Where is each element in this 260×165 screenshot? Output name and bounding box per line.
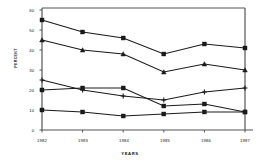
series-4-marker-0 bbox=[40, 88, 44, 92]
series-3-marker-3 bbox=[161, 98, 166, 103]
series-5-line bbox=[42, 110, 245, 116]
series-5-marker-1 bbox=[81, 110, 85, 114]
series-3-marker-5 bbox=[243, 86, 248, 91]
series-1-marker-1 bbox=[81, 30, 85, 34]
series-3-marker-4 bbox=[202, 90, 207, 95]
series-1-marker-4 bbox=[202, 42, 206, 46]
series-1-marker-3 bbox=[162, 52, 166, 56]
series-5-marker-4 bbox=[202, 110, 206, 114]
series-1-marker-2 bbox=[121, 36, 125, 40]
series-4-marker-2 bbox=[121, 86, 125, 90]
series-series-3 bbox=[40, 78, 248, 103]
data-series-layer bbox=[40, 18, 248, 118]
series-4-marker-1 bbox=[81, 86, 85, 90]
line-chart: PERCENT 60 50 40 30 20 10 0 1982 1983 19… bbox=[0, 0, 260, 165]
series-5-marker-0 bbox=[40, 108, 44, 112]
series-1-marker-0 bbox=[40, 18, 44, 22]
plot-area bbox=[0, 0, 260, 165]
series-4-marker-4 bbox=[202, 102, 206, 106]
series-series-5 bbox=[40, 108, 247, 118]
series-series-4 bbox=[40, 86, 247, 114]
series-5-marker-2 bbox=[121, 114, 125, 118]
series-series-2 bbox=[40, 38, 248, 74]
series-4-line bbox=[42, 88, 245, 112]
series-5-marker-3 bbox=[162, 112, 166, 116]
series-series-1 bbox=[40, 18, 247, 56]
series-1-marker-5 bbox=[243, 46, 247, 50]
series-5-marker-5 bbox=[243, 110, 247, 114]
series-1-line bbox=[42, 20, 245, 54]
series-4-marker-3 bbox=[162, 104, 166, 108]
series-3-marker-0 bbox=[40, 78, 45, 83]
series-3-marker-2 bbox=[121, 94, 126, 99]
